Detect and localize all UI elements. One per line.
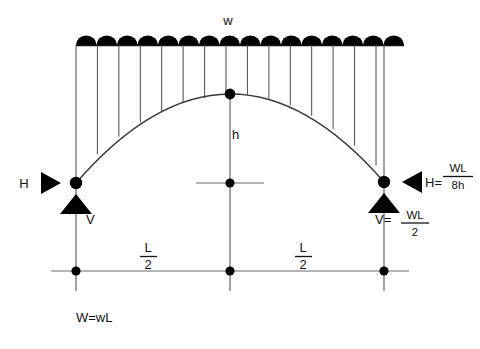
baseline-center-node bbox=[225, 266, 234, 275]
left-horizontal-reaction-arrow bbox=[41, 172, 61, 194]
right-vertical-reaction-arrow bbox=[368, 193, 400, 213]
span-half-right-denominator: 2 bbox=[299, 257, 306, 272]
load-bumps bbox=[76, 36, 404, 46]
distributed-load-group bbox=[76, 36, 404, 46]
support-verticals bbox=[76, 94, 384, 291]
total-load-label: W=wL bbox=[76, 310, 112, 325]
left-horizontal-reaction-label: H bbox=[19, 176, 28, 191]
horizontal-reaction-denominator: 8h bbox=[452, 179, 465, 191]
vertical-reaction-numerator: WL bbox=[406, 209, 424, 221]
left-vertical-reaction-label: V bbox=[86, 212, 95, 227]
span-half-left-numerator: L bbox=[144, 240, 151, 255]
right-horizontal-reaction-arrow bbox=[402, 171, 422, 193]
span-half-left-label: L 2 bbox=[140, 240, 157, 272]
baseline-right-node bbox=[379, 266, 388, 275]
span-half-right-label: L 2 bbox=[295, 240, 312, 272]
horizontal-reaction-formula-lhs: H= bbox=[425, 175, 442, 190]
baseline-left-node bbox=[71, 266, 80, 275]
left-support-node bbox=[70, 177, 82, 189]
arch-load-diagram: h H V H= WL 8h bbox=[0, 0, 480, 349]
crown-node bbox=[225, 89, 236, 100]
diagram-canvas: h H V H= WL 8h bbox=[0, 0, 480, 349]
vertical-reaction-denominator: 2 bbox=[412, 226, 418, 238]
load-intensity-label: w bbox=[222, 13, 233, 28]
right-support-group bbox=[368, 171, 422, 213]
vertical-reaction-formula: V= WL 2 bbox=[375, 209, 429, 238]
left-support-group: H V bbox=[19, 172, 95, 227]
span-half-right-numerator: L bbox=[299, 240, 306, 255]
vertical-reaction-formula-lhs: V= bbox=[375, 212, 391, 227]
horizontal-reaction-numerator: WL bbox=[449, 162, 467, 174]
right-support-node bbox=[378, 176, 390, 188]
springing-center-node bbox=[225, 178, 234, 187]
rise-label: h bbox=[232, 127, 239, 142]
left-vertical-reaction-arrow bbox=[60, 194, 92, 214]
horizontal-reaction-formula: H= WL 8h bbox=[425, 162, 473, 191]
span-half-left-denominator: 2 bbox=[144, 257, 151, 272]
span-dimension-baseline bbox=[51, 266, 409, 275]
